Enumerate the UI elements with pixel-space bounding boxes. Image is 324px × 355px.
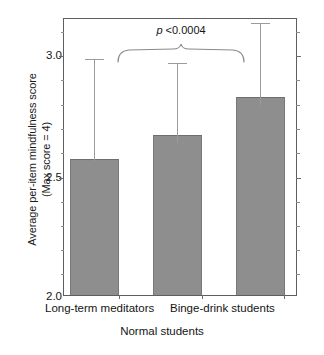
p-value-annotation: p <0.0004 bbox=[118, 24, 244, 36]
y-major-tick-2.5-right bbox=[296, 178, 301, 179]
y-minor-tick-2.1-left bbox=[61, 274, 65, 275]
y-minor-tick-3.1-right bbox=[296, 32, 300, 33]
x-label-binge-drink-students: Binge-drink students bbox=[170, 302, 275, 315]
error-bar-long-term-meditators bbox=[70, 59, 119, 161]
y-minor-tick-2.3-left bbox=[61, 226, 65, 227]
y-minor-tick-2.6-left bbox=[61, 153, 65, 154]
y-tick-label-2.0: 2.0 bbox=[34, 290, 62, 302]
error-bar-stem bbox=[260, 23, 261, 105]
x-label-long-term-meditators: Long-term meditators bbox=[45, 302, 154, 315]
error-bar-stem bbox=[94, 59, 95, 161]
y-tick-label-3.0: 3.0 bbox=[34, 49, 62, 61]
y-major-tick-3.0-left bbox=[59, 56, 64, 57]
significance-brace bbox=[116, 43, 246, 63]
y-minor-tick-2.9-right bbox=[296, 80, 300, 81]
y-minor-tick-2.6-right bbox=[296, 153, 300, 154]
y-minor-tick-3.1-left bbox=[61, 32, 65, 33]
y-minor-tick-2.2-right bbox=[296, 250, 300, 251]
y-minor-tick-2.3-right bbox=[296, 226, 300, 227]
y-tick-label-2.5: 2.5 bbox=[34, 171, 62, 183]
error-bar-normal-students bbox=[153, 63, 202, 143]
y-minor-tick-2.7-right bbox=[296, 129, 300, 130]
y-minor-tick-2.8-right bbox=[296, 105, 300, 106]
error-bar-stem bbox=[177, 63, 178, 143]
x-tick-1 bbox=[119, 295, 120, 299]
mindfulness-bar-chart: Average per-item mindfulness score (Max … bbox=[0, 0, 324, 355]
p-value-text: <0.0004 bbox=[163, 24, 206, 36]
x-tick-2 bbox=[202, 295, 203, 299]
y-minor-tick-2.7-left bbox=[61, 129, 65, 130]
x-tick-3 bbox=[284, 295, 285, 299]
y-minor-tick-2.8-left bbox=[61, 105, 65, 106]
x-label-normal-students: Normal students bbox=[62, 325, 262, 338]
y-minor-tick-2.2-left bbox=[61, 250, 65, 251]
y-major-tick-2.5-left bbox=[59, 178, 64, 179]
y-minor-tick-2.9-left bbox=[61, 80, 65, 81]
y-minor-tick-2.4-right bbox=[296, 202, 300, 203]
y-major-tick-3.0-right bbox=[296, 56, 301, 57]
bar-normal-students bbox=[153, 135, 202, 295]
y-minor-tick-2.4-left bbox=[61, 202, 65, 203]
bar-binge-drink-students bbox=[236, 97, 285, 295]
y-minor-tick-2.1-right bbox=[296, 274, 300, 275]
bar-long-term-meditators bbox=[70, 159, 119, 295]
